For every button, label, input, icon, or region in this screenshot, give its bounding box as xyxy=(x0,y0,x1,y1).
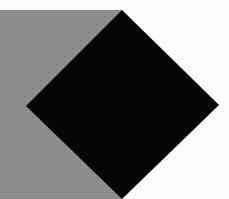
shape-canvas xyxy=(0,0,229,199)
